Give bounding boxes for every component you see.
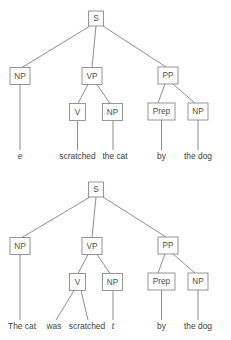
node-np-subject-label: NP — [14, 72, 26, 81]
edge-v-to-leaf-was — [56, 291, 74, 321]
tree-surface-structure: S NP VP PP V — [8, 182, 212, 331]
tree-deep-structure: S NP VP PP V — [10, 11, 212, 161]
node-v[interactable]: V — [70, 104, 86, 121]
node-v-label: V — [75, 108, 81, 117]
node-pp[interactable]: PP — [158, 237, 178, 254]
tree-1-nodes: S NP VP PP V — [10, 11, 208, 121]
node-np-object[interactable]: NP — [103, 274, 123, 291]
node-pp-label: PP — [163, 241, 174, 250]
tree-1-edges — [20, 26, 198, 150]
node-vp-label: VP — [87, 72, 98, 81]
edge-pp-to-np-oblique — [173, 84, 195, 103]
edge-vp-to-v — [78, 255, 88, 274]
node-s[interactable]: S — [89, 11, 104, 26]
leaf-the-cat-subject: The cat — [8, 321, 37, 331]
tree-2-edges — [20, 197, 198, 320]
node-pp[interactable]: PP — [158, 67, 178, 84]
leaf-empty-subject: e — [18, 151, 23, 161]
edge-s-to-vp — [92, 26, 96, 68]
edge-pp-to-np-oblique — [173, 254, 195, 273]
node-v[interactable]: V — [70, 274, 86, 291]
leaf-trace: t — [112, 321, 115, 331]
leaf-the-cat: the cat — [102, 151, 128, 161]
leaf-scratched: scratched — [59, 151, 96, 161]
tree-2-nodes: S NP VP PP V — [10, 182, 208, 291]
leaf-scratched: scratched — [69, 321, 106, 331]
node-vp[interactable]: VP — [82, 68, 102, 85]
node-s-label: S — [93, 14, 99, 23]
node-s[interactable]: S — [89, 182, 104, 197]
node-prep[interactable]: Prep — [148, 103, 175, 120]
edge-s-to-vp — [92, 197, 96, 238]
tree-2-leaves: The cat was scratched t by the dog — [8, 321, 212, 331]
edge-s-to-pp — [103, 26, 166, 67]
node-np-subject[interactable]: NP — [10, 68, 30, 85]
node-np-oblique-label: NP — [192, 107, 204, 116]
syntax-trees-svg: S NP VP PP V — [0, 0, 231, 340]
node-np-subject[interactable]: NP — [10, 238, 30, 255]
edge-s-to-np-subject — [22, 197, 90, 238]
node-np-object-label: NP — [107, 108, 119, 117]
edge-s-to-pp — [103, 197, 166, 237]
edge-pp-to-prep — [158, 84, 165, 103]
node-np-subject-label: NP — [14, 242, 26, 251]
node-pp-label: PP — [163, 71, 174, 80]
node-np-object-label: NP — [107, 278, 119, 287]
leaf-by: by — [157, 151, 167, 161]
node-prep[interactable]: Prep — [148, 273, 175, 290]
node-np-oblique-label: NP — [192, 277, 204, 286]
leaf-the-dog: the dog — [184, 321, 212, 331]
edge-vp-to-v — [78, 85, 88, 104]
edge-s-to-np-subject — [22, 26, 90, 68]
edge-vp-to-np-object — [97, 255, 110, 274]
node-vp[interactable]: VP — [82, 238, 102, 255]
figure-canvas: S NP VP PP V — [0, 0, 231, 340]
leaf-by: by — [157, 321, 167, 331]
tree-1-leaves: e scratched the cat by the dog — [18, 151, 213, 161]
node-np-oblique[interactable]: NP — [188, 273, 208, 290]
node-np-oblique[interactable]: NP — [188, 103, 208, 120]
node-vp-label: VP — [87, 242, 98, 251]
leaf-the-dog: the dog — [184, 151, 212, 161]
node-v-label: V — [75, 278, 81, 287]
node-np-object[interactable]: NP — [103, 104, 123, 121]
edge-v-to-leaf-scratched — [81, 291, 88, 321]
edge-pp-to-prep — [158, 254, 165, 273]
node-prep-label: Prep — [153, 277, 171, 286]
leaf-was: was — [46, 321, 62, 331]
edge-vp-to-np-object — [97, 85, 110, 104]
node-s-label: S — [93, 185, 99, 194]
node-prep-label: Prep — [153, 107, 171, 116]
